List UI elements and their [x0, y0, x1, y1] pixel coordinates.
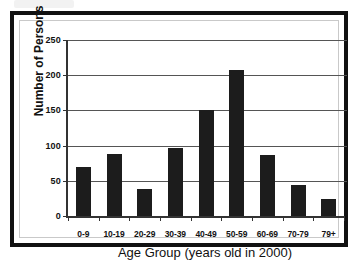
x-tick-mark [68, 216, 69, 221]
x-tick-label: 50-59 [226, 229, 247, 239]
chart-plot-object: Number of Persons 050100150200250 0-910-… [19, 20, 339, 238]
x-tick-label: 30-39 [165, 229, 186, 239]
y-tick-label: 150 [45, 105, 61, 115]
x-tick-mark [221, 216, 222, 221]
x-tick-mark [313, 216, 314, 221]
x-tick-label: 60-69 [257, 229, 278, 239]
y-tick-label: 0 [56, 211, 61, 221]
bar [260, 155, 275, 216]
y-tick-label: 200 [45, 70, 61, 80]
bar [137, 189, 152, 216]
bar [321, 199, 336, 216]
plot-area: 050100150200250 0-910-1920-2930-3940-495… [66, 40, 344, 218]
bar [291, 185, 306, 216]
x-tick-mark [252, 216, 253, 221]
figure-frame: Number of Persons 050100150200250 0-910-… [10, 11, 348, 247]
x-tick-mark [99, 216, 100, 221]
x-axis-title: Age Group (years old in 2000) [66, 245, 344, 260]
x-tick-label: 40-49 [195, 229, 216, 239]
x-tick-label: 0-9 [77, 229, 89, 239]
x-tick-mark [283, 216, 284, 221]
y-tick-label: 100 [45, 141, 61, 151]
bar [107, 154, 122, 216]
x-tick-label: 10-19 [103, 229, 124, 239]
y-axis-title: Number of Persons [32, 0, 46, 136]
bar [168, 148, 183, 216]
x-tick-label: 70-79 [287, 229, 308, 239]
x-tick-label: 79+ [322, 229, 336, 239]
y-tick-label: 250 [45, 35, 61, 45]
bar [229, 70, 244, 216]
x-tick-label: 20-29 [134, 229, 155, 239]
y-tick-label: 50 [51, 176, 61, 186]
x-tick-mark [129, 216, 130, 221]
bar-series [68, 40, 344, 216]
bar [199, 110, 214, 216]
bar [76, 167, 91, 216]
x-tick-mark [344, 216, 345, 221]
x-tick-mark [160, 216, 161, 221]
x-tick-mark [191, 216, 192, 221]
